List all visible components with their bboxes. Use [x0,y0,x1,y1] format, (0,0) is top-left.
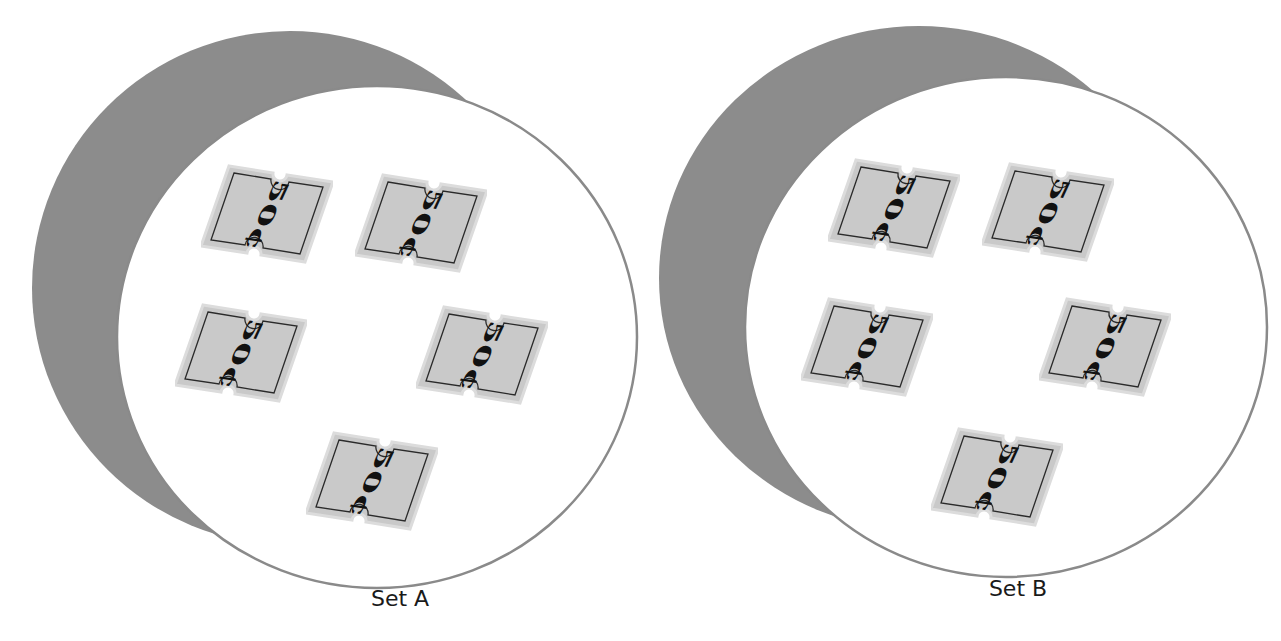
ticket: 50¢ [1039,297,1171,397]
ticket-graphic: 50¢ [175,303,307,403]
ticket: 50¢ [828,158,960,258]
ticket-graphic: 50¢ [201,164,333,264]
ticket-graphic: 50¢ [355,173,487,273]
ticket-graphic: 50¢ [306,431,438,531]
ticket-graphic: 50¢ [828,158,960,258]
ticket: 50¢ [801,297,933,397]
ticket-graphic: 50¢ [801,297,933,397]
set-b-label: Set B [989,576,1047,601]
ticket: 50¢ [355,173,487,273]
ticket: 50¢ [175,303,307,403]
ticket-graphic: 50¢ [1039,297,1171,397]
ticket: 50¢ [201,164,333,264]
set-a-label: Set A [371,586,429,611]
ticket: 50¢ [306,431,438,531]
ticket: 50¢ [416,305,548,405]
ticket: 50¢ [931,427,1063,527]
ticket: 50¢ [982,162,1114,262]
ticket-graphic: 50¢ [416,305,548,405]
ticket-graphic: 50¢ [982,162,1114,262]
venn-sets-figure: 50¢50¢50¢50¢50¢ 50¢50¢50¢50¢50¢ Set A Se… [0,0,1281,641]
ticket-graphic: 50¢ [931,427,1063,527]
